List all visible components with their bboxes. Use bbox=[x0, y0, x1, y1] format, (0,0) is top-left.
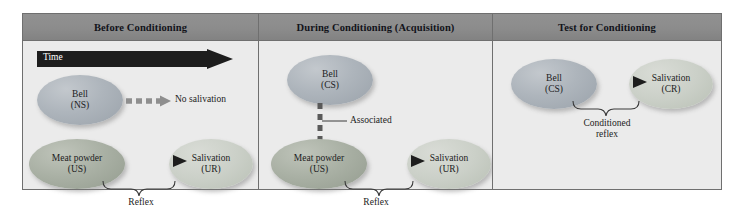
panel-title: Test for Conditioning bbox=[558, 22, 656, 33]
panel-header-test-for-conditioning: Test for Conditioning bbox=[493, 14, 721, 41]
label-conditioned-reflex: Conditioned reflex bbox=[493, 118, 721, 140]
panel-body-during-conditioning: Bell (CS) Associated Meat powder (US) Sa… bbox=[259, 41, 492, 189]
brace-reflex bbox=[259, 41, 492, 189]
brace-reflex bbox=[23, 41, 258, 189]
panel-test-for-conditioning: Test for Conditioning Bell (CS) Salivati… bbox=[493, 14, 721, 189]
panel-header-before-conditioning: Before Conditioning bbox=[23, 14, 258, 41]
label-conditioned-reflex-line1: Conditioned bbox=[584, 118, 631, 128]
panel-body-test-for-conditioning: Bell (CS) Salivation (CR) bbox=[493, 41, 721, 189]
label-reflex: Reflex bbox=[23, 197, 259, 205]
label-conditioned-reflex-line2: reflex bbox=[596, 129, 618, 139]
panel-during-conditioning: During Conditioning (Acquisition) Bell (… bbox=[259, 14, 493, 189]
time-arrow-label: Time bbox=[43, 52, 63, 62]
label-reflex: Reflex bbox=[259, 197, 493, 205]
panel-header-during-conditioning: During Conditioning (Acquisition) bbox=[259, 14, 492, 41]
conditioning-diagram-figure: Before Conditioning Time Bell (NS) No sa… bbox=[22, 13, 722, 190]
panel-body-before-conditioning: Time Bell (NS) No salivation Meat powder… bbox=[23, 41, 258, 189]
panel-title: During Conditioning (Acquisition) bbox=[297, 22, 455, 33]
panel-title: Before Conditioning bbox=[94, 22, 187, 33]
brace-conditioned-reflex bbox=[493, 41, 721, 189]
panel-before-conditioning: Before Conditioning Time Bell (NS) No sa… bbox=[23, 14, 259, 189]
